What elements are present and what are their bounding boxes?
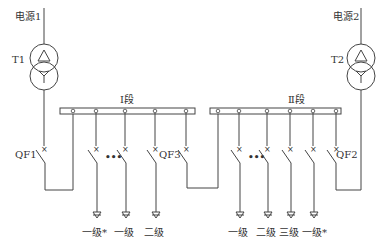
load-label: 一级 — [114, 227, 134, 238]
bus-1-feeder-3: × 二级 — [144, 113, 164, 238]
bus-2-feeder-2: × 二级 — [256, 113, 276, 238]
source-2-label: 电源2 — [333, 10, 359, 22]
load-label: 一级* — [302, 227, 327, 238]
load-label: 二级 — [256, 227, 276, 238]
breaker-qf2-label: QF2 — [336, 149, 358, 160]
load-label: 一级 — [228, 227, 248, 238]
breaker-qf1-label: QF1 — [15, 149, 37, 160]
load-label: 一级* — [82, 227, 107, 238]
ellipsis-2: ••• — [248, 152, 265, 162]
svg-text:×: × — [183, 145, 190, 154]
svg-text:×: × — [41, 145, 48, 154]
svg-text:×: × — [152, 145, 159, 154]
svg-text:×: × — [287, 145, 294, 154]
bus-2-feeder-4: × 一级* — [302, 113, 327, 238]
bus-1-feeder-1: × 一级* — [82, 113, 107, 238]
bus-2-feeder-3: × 三级 — [279, 113, 299, 238]
svg-text:×: × — [93, 145, 100, 154]
transformer-t1-label: T1 — [12, 54, 25, 65]
breaker-qf1-icon: × — [36, 145, 48, 190]
breaker-qf3-label: QF3 — [159, 149, 181, 160]
source-1-label: 电源1 — [15, 10, 41, 22]
bus-tie-qf3: × QF3 — [159, 113, 218, 188]
source-1-branch: 电源1 T1 × QF1 — [12, 8, 73, 190]
load-label: 二级 — [144, 227, 164, 238]
bus-2-label: Ⅱ段 — [288, 93, 305, 105]
transformer-t1-icon — [30, 44, 58, 90]
load-label: 三级 — [279, 227, 299, 238]
source-2-branch: 电源2 T2 × QF2 — [327, 8, 375, 190]
svg-text:×: × — [236, 145, 243, 154]
bus-2: Ⅱ段 — [210, 93, 341, 114]
bus-1-label: Ⅰ段 — [120, 93, 134, 105]
svg-text:×: × — [310, 145, 317, 154]
transformer-t2-icon — [347, 44, 375, 90]
transformer-t2-label: T2 — [331, 54, 344, 65]
svg-text:×: × — [264, 145, 271, 154]
bus-1-feeder-2: × 一级 — [114, 113, 134, 238]
svg-text:×: × — [122, 145, 129, 154]
bus-2-feeder-1: × 一级 — [228, 113, 248, 238]
diagram-canvas: 电源1 T1 × QF1 Ⅰ段 × — [0, 0, 390, 248]
wiring-diagram: 电源1 T1 × QF1 Ⅰ段 × — [0, 0, 390, 248]
bus-1: Ⅰ段 — [60, 93, 195, 114]
